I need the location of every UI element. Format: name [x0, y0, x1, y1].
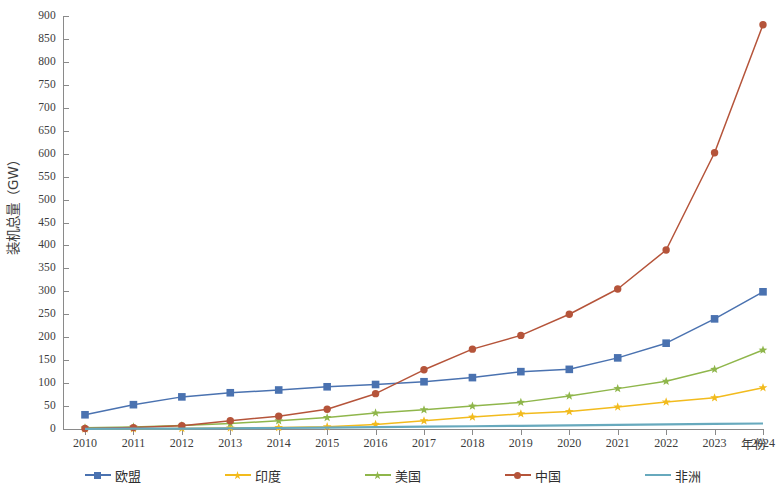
legend-swatch-icon — [85, 469, 111, 481]
data-point — [662, 246, 669, 253]
data-point — [469, 345, 476, 352]
legend-label: 印度 — [255, 466, 281, 485]
data-point — [420, 416, 429, 424]
data-point — [226, 389, 234, 397]
data-point — [516, 398, 525, 406]
data-point — [372, 381, 380, 389]
data-point — [371, 408, 380, 416]
legend-label: 非洲 — [675, 466, 701, 485]
data-point — [565, 407, 574, 415]
data-point — [275, 386, 283, 394]
data-point — [711, 149, 718, 156]
data-point — [662, 397, 671, 405]
data-point — [662, 339, 670, 347]
data-point — [565, 366, 573, 374]
data-point — [420, 366, 427, 373]
series-line — [85, 292, 763, 415]
data-point — [759, 345, 768, 353]
data-point — [517, 368, 525, 376]
data-point — [516, 409, 525, 417]
data-point — [323, 406, 330, 413]
data-point — [662, 377, 671, 385]
data-point — [759, 383, 768, 391]
data-point — [565, 391, 574, 399]
data-point — [711, 315, 719, 323]
legend-item-美国[interactable]: 美国 — [343, 466, 483, 485]
data-point — [566, 311, 573, 318]
data-point — [468, 412, 477, 420]
data-point — [710, 393, 719, 401]
data-point — [613, 384, 622, 392]
data-point — [468, 401, 477, 409]
data-point — [613, 402, 622, 410]
legend-item-中国[interactable]: 中国 — [483, 466, 623, 485]
data-point — [323, 383, 331, 391]
series-plot — [0, 0, 779, 488]
data-point — [323, 422, 332, 430]
legend-label: 欧盟 — [115, 466, 141, 485]
data-point — [469, 374, 477, 382]
data-point — [81, 411, 89, 419]
series-欧盟 — [81, 288, 767, 419]
legend-item-欧盟[interactable]: 欧盟 — [63, 466, 203, 485]
legend-label: 中国 — [535, 466, 561, 485]
data-point — [227, 417, 234, 424]
legend-item-印度[interactable]: 印度 — [203, 466, 343, 485]
data-point — [372, 390, 379, 397]
data-point — [178, 393, 186, 401]
data-point — [759, 288, 767, 296]
data-point — [323, 413, 332, 421]
data-point — [420, 405, 429, 413]
legend-item-非洲[interactable]: 非洲 — [623, 466, 763, 485]
series-line — [85, 423, 763, 428]
chart-legend: 欧盟印度美国中国非洲 — [63, 463, 763, 487]
legend-label: 美国 — [395, 466, 421, 485]
legend-swatch-icon — [505, 469, 531, 481]
legend-swatch-icon — [645, 469, 671, 481]
data-point — [420, 378, 428, 386]
data-point — [130, 401, 138, 409]
data-point — [275, 412, 282, 419]
data-point — [614, 354, 622, 362]
line-chart: 0501001502002503003504004505005506006507… — [0, 0, 779, 488]
data-point — [517, 332, 524, 339]
legend-swatch-icon — [225, 469, 251, 481]
series-中国 — [81, 21, 766, 432]
legend-swatch-icon — [365, 469, 391, 481]
data-point — [710, 365, 719, 373]
data-point — [759, 21, 766, 28]
series-非洲 — [85, 423, 763, 428]
data-point — [614, 285, 621, 292]
